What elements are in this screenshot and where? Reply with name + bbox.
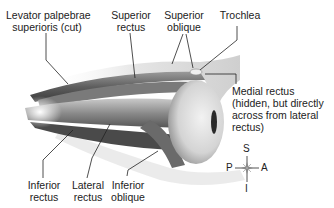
label-line: rectus bbox=[110, 21, 152, 33]
label-levator-palpebrae: Levator palpebrae superioris (cut) bbox=[6, 9, 88, 33]
compass-superior: S bbox=[243, 144, 250, 154]
label-line: rectus bbox=[24, 191, 64, 203]
compass-posterior: P bbox=[226, 163, 233, 173]
label-superior-rectus: Superior rectus bbox=[110, 9, 152, 33]
compass-anterior: A bbox=[261, 163, 268, 173]
label-line: Medial rectus bbox=[232, 85, 324, 97]
label-line: superioris (cut) bbox=[6, 21, 88, 33]
label-line: Lateral bbox=[70, 179, 106, 191]
label-line: Superior bbox=[110, 9, 152, 21]
label-line: rectus bbox=[70, 191, 106, 203]
label-line: rectus) bbox=[232, 121, 324, 133]
label-line: across from lateral bbox=[232, 109, 324, 121]
label-line: Trochlea bbox=[219, 9, 261, 21]
label-line: Levator palpebrae bbox=[6, 9, 88, 21]
label-line: oblique bbox=[108, 191, 148, 203]
compass-inferior: I bbox=[245, 184, 248, 194]
label-line: oblique bbox=[163, 21, 205, 33]
label-medial-rectus: Medial rectus (hidden, but directly acro… bbox=[232, 85, 324, 133]
label-superior-oblique: Superior oblique bbox=[163, 9, 205, 33]
label-inferior-oblique: Inferior oblique bbox=[108, 179, 148, 203]
label-line: Superior bbox=[163, 9, 205, 21]
label-line: Inferior bbox=[24, 179, 64, 191]
label-line: (hidden, but directly bbox=[232, 97, 324, 109]
label-inferior-rectus: Inferior rectus bbox=[24, 179, 64, 203]
label-lateral-rectus: Lateral rectus bbox=[70, 179, 106, 203]
label-line: Inferior bbox=[108, 179, 148, 191]
label-trochlea: Trochlea bbox=[219, 9, 261, 21]
